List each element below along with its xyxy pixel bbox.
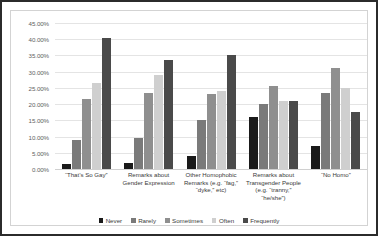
- bar: [164, 60, 173, 169]
- bar: [92, 83, 101, 169]
- bar: [227, 55, 236, 169]
- bar: [102, 38, 111, 169]
- legend-item[interactable]: Rarely: [131, 217, 156, 224]
- bar: [124, 163, 133, 169]
- y-axis-tick-label: 35.00%: [29, 52, 49, 59]
- bar: [187, 156, 196, 169]
- bar-group: [55, 23, 117, 169]
- bar: [279, 101, 288, 169]
- bar: [341, 88, 350, 169]
- legend-label: Frequently: [250, 217, 279, 224]
- chart-screenshot: 45.00%40.00%35.00%30.00%25.00%20.00%15.0…: [0, 0, 378, 236]
- bar: [269, 86, 278, 169]
- bar: [207, 94, 216, 169]
- y-axis-tick-label: 40.00%: [29, 36, 49, 43]
- bar-group: [305, 23, 367, 169]
- axis-baseline: [55, 169, 367, 170]
- x-axis-category-label: Remarks about Transgender People (e.g. “…: [242, 171, 304, 215]
- legend-item[interactable]: Often: [212, 217, 234, 224]
- y-axis-tick-label: 25.00%: [29, 84, 49, 91]
- bar: [144, 93, 153, 169]
- legend-label: Sometimes: [172, 217, 203, 224]
- x-axis-category-label: Remarks about Gender Expression: [117, 171, 179, 215]
- bar: [321, 93, 330, 169]
- bar: [134, 138, 143, 169]
- x-axis-category-label: Other Homophobic Remarks (e.g. “fag,” “d…: [180, 171, 242, 215]
- y-axis-tick-label: 45.00%: [29, 20, 49, 27]
- bar: [217, 91, 226, 169]
- bar: [82, 99, 91, 169]
- bar: [154, 75, 163, 169]
- legend-label: Rarely: [138, 217, 156, 224]
- x-axis-category-label: “That’s So Gay”: [55, 171, 117, 215]
- bar-group: [180, 23, 242, 169]
- y-axis-tick-label: 30.00%: [29, 68, 49, 75]
- bar: [351, 112, 360, 169]
- bar: [72, 140, 81, 169]
- y-axis-tick-label: 5.00%: [32, 149, 49, 156]
- y-axis-tick-label: 20.00%: [29, 101, 49, 108]
- bar: [249, 117, 258, 169]
- legend-item[interactable]: Sometimes: [165, 217, 203, 224]
- bar-group: [117, 23, 179, 169]
- legend-item[interactable]: Frequently: [243, 217, 279, 224]
- legend-swatch-icon: [165, 218, 170, 223]
- chart-legend: NeverRarelySometimesOftenFrequently: [11, 217, 367, 224]
- legend-swatch-icon: [212, 218, 217, 223]
- legend-label: Never: [106, 217, 123, 224]
- bar: [331, 68, 340, 169]
- bar: [259, 104, 268, 169]
- bar: [311, 146, 320, 169]
- chart-frame: 45.00%40.00%35.00%30.00%25.00%20.00%15.0…: [10, 10, 368, 226]
- legend-item[interactable]: Never: [99, 217, 123, 224]
- bar: [62, 164, 71, 169]
- bar-group: [242, 23, 304, 169]
- legend-swatch-icon: [131, 218, 136, 223]
- y-axis-tick-label: 15.00%: [29, 117, 49, 124]
- x-axis: “That’s So Gay”Remarks about Gender Expr…: [55, 171, 367, 215]
- y-axis-tick-label: 10.00%: [29, 133, 49, 140]
- legend-swatch-icon: [243, 218, 248, 223]
- y-axis-tick-label: 0.00%: [32, 166, 49, 173]
- bar: [197, 120, 206, 169]
- plot-area: [55, 23, 367, 169]
- bar: [289, 101, 298, 169]
- legend-label: Often: [219, 217, 234, 224]
- bar-layer: [55, 23, 367, 169]
- legend-swatch-icon: [99, 218, 104, 223]
- x-axis-category-label: “No Homo”: [305, 171, 367, 215]
- y-axis: 45.00%40.00%35.00%30.00%25.00%20.00%15.0…: [11, 23, 53, 169]
